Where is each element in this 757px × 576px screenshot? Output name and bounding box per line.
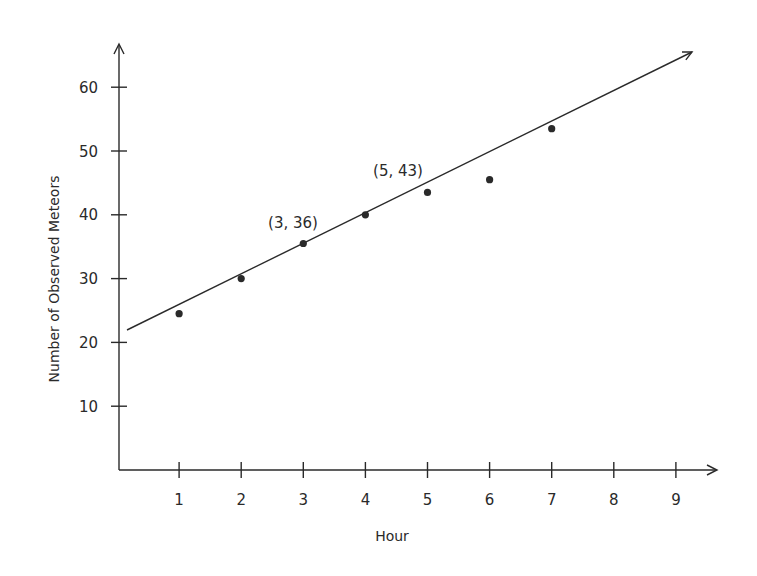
x-tick-label: 5 xyxy=(423,491,433,509)
x-tick-label: 9 xyxy=(671,491,681,509)
data-point xyxy=(362,211,369,218)
fit-line-segment xyxy=(127,52,692,330)
data-point xyxy=(548,125,555,132)
y-tick-label: 20 xyxy=(79,334,98,352)
data-point xyxy=(486,176,493,183)
x-tick-label: 6 xyxy=(485,491,495,509)
point-annotation: (5, 43) xyxy=(373,162,423,180)
y-tick-label: 30 xyxy=(79,270,98,288)
data-point xyxy=(300,240,307,247)
data-point xyxy=(238,275,245,282)
y-tick-label: 50 xyxy=(79,143,98,161)
x-tick-label: 1 xyxy=(174,491,184,509)
best-fit-line xyxy=(127,52,692,330)
x-tick-label: 8 xyxy=(609,491,619,509)
data-points xyxy=(176,125,556,317)
x-axis-title: Hour xyxy=(375,528,409,544)
x-tick-label: 4 xyxy=(361,491,371,509)
point-annotation: (3, 36) xyxy=(268,214,318,232)
x-tick-label: 7 xyxy=(547,491,557,509)
data-point xyxy=(176,310,183,317)
data-point xyxy=(424,189,431,196)
axes: 123456789102030405060 xyxy=(79,44,717,509)
x-tick-label: 3 xyxy=(299,491,309,509)
y-tick-label: 40 xyxy=(79,206,98,224)
y-tick-label: 60 xyxy=(79,79,98,97)
y-axis-title: Number of Observed Meteors xyxy=(46,176,62,383)
scatter-chart: 123456789102030405060 (3, 36)(5, 43) Hou… xyxy=(0,0,757,576)
annotations: (3, 36)(5, 43) xyxy=(268,162,423,232)
x-tick-label: 2 xyxy=(236,491,246,509)
y-tick-label: 10 xyxy=(79,398,98,416)
